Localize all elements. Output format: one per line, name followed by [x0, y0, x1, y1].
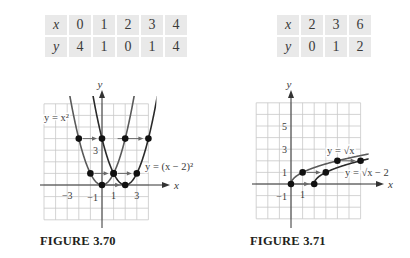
data-point — [357, 158, 364, 165]
x-axis-label: x — [387, 178, 393, 190]
curve-label-2: y = √x − 2 — [345, 167, 389, 178]
figure-3-71-graph: xy1531−1y = √xy = √x − 2 — [0, 0, 410, 258]
graph-group: xy1531−1y = √xy = √x − 2 — [252, 78, 393, 228]
y-tick-label: 3 — [282, 144, 287, 155]
data-point — [334, 158, 341, 165]
data-point — [311, 181, 318, 188]
curve-label-1: y = √x — [327, 145, 355, 156]
y-axis-label: y — [286, 78, 292, 90]
data-point — [299, 169, 306, 176]
y-tick-label: 1 — [282, 167, 287, 178]
arrowhead-icon — [316, 170, 321, 174]
y-tick-label: −1 — [276, 191, 287, 202]
figure-caption-right: FIGURE 3.71 — [250, 234, 326, 249]
x-tick-label: 1 — [300, 189, 305, 200]
arrowhead-icon — [304, 182, 309, 186]
y-tick-label: 5 — [282, 121, 287, 132]
x-axis-arrow-icon — [376, 181, 384, 187]
data-point — [323, 169, 330, 176]
data-point — [288, 181, 295, 188]
y-axis-arrow-icon — [288, 90, 294, 98]
figure-caption-left: FIGURE 3.70 — [40, 234, 116, 249]
